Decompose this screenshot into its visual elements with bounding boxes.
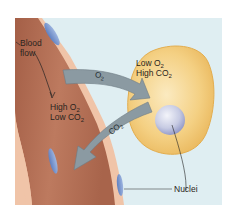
vessel-co2-level: Low CO2 [50,112,84,122]
diagram-canvas [0,0,236,219]
vessel-concentration-label: High O2 Low CO2 [50,102,84,122]
o2-arrow-label: O2 [94,70,104,80]
cell-co2-level: High CO2 [136,68,172,78]
blood-flow-label-line2: flow [20,48,42,58]
cell-o2-level: Low O2 [136,58,172,68]
nuclei-label: Nuclei [174,184,198,194]
cell-concentration-label: Low O2 High CO2 [136,58,172,78]
gas-exchange-diagram: Blood flow High O2 Low CO2 Low O2 High C… [0,0,236,219]
cell-nucleus-icon [155,105,185,135]
blood-flow-label-line1: Blood [20,38,42,48]
blood-flow-label: Blood flow [20,38,42,58]
vessel-o2-level: High O2 [50,102,84,112]
